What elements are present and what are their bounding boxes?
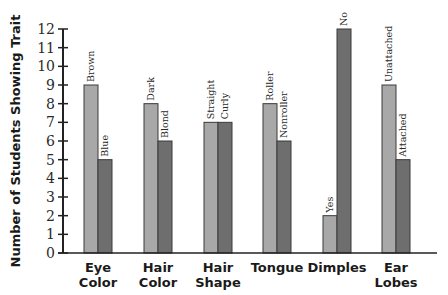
bar-label: Nonroller (278, 91, 289, 138)
x-category-label: Shape (195, 275, 241, 290)
y-tick-label: 5 (46, 152, 55, 168)
bar (218, 122, 232, 253)
y-tick-label: 7 (46, 114, 55, 130)
y-tick-label: 2 (46, 208, 55, 224)
bar-label: Dark (145, 77, 156, 101)
y-tick-label: 1 (46, 226, 55, 242)
bar-label: No (338, 12, 349, 26)
bar-label: Straight (205, 80, 216, 120)
bars: BrownBlueDarkBlondStraightCurlyRollerNon… (84, 12, 410, 253)
bar-chart: Number of Students Showing Trait 0123456… (0, 0, 448, 295)
bar (84, 85, 98, 253)
x-category-label: Color (79, 275, 118, 290)
bar (204, 122, 218, 253)
bar-label: Unattached (383, 26, 394, 82)
x-category-label: Ear (384, 260, 409, 275)
bar (337, 29, 351, 253)
y-tick-label: 0 (46, 245, 55, 261)
bar (144, 104, 158, 253)
bar-label: Blue (99, 135, 110, 157)
y-axis: 0123456789101112 (37, 21, 68, 261)
y-tick-label: 8 (46, 96, 55, 112)
y-tick-label: 11 (37, 40, 55, 56)
x-category-label: Eye (85, 260, 111, 275)
y-tick-label: 9 (46, 77, 55, 93)
bar (158, 141, 172, 253)
x-axis: EyeColorHairColorHairShapeTongueDimplesE… (58, 253, 437, 290)
bar-label: Brown (85, 51, 96, 83)
bar (396, 160, 410, 253)
bar-label: Attached (397, 114, 408, 158)
bar-label: Curly (219, 92, 230, 119)
bar (263, 104, 277, 253)
bar (382, 85, 396, 253)
x-category-label: Lobes (374, 275, 417, 290)
y-tick-label: 6 (46, 133, 55, 149)
bar (323, 216, 337, 253)
y-tick-label: 12 (37, 21, 55, 37)
bar (277, 141, 291, 253)
bar (98, 160, 112, 253)
y-tick-label: 4 (46, 170, 55, 186)
bar-label: Roller (264, 71, 275, 101)
y-axis-label: Number of Students Showing Trait (8, 15, 23, 268)
y-axis-title: Number of Students Showing Trait (8, 15, 23, 268)
y-tick-label: 10 (37, 58, 55, 74)
bar-label: Blond (159, 110, 170, 138)
x-category-label: Hair (143, 260, 174, 275)
y-tick-label: 3 (46, 189, 55, 205)
x-category-label: Dimples (307, 260, 366, 275)
bar-label: Yes (324, 197, 335, 214)
x-category-label: Tongue (251, 260, 304, 275)
x-category-label: Hair (203, 260, 234, 275)
x-category-label: Color (139, 275, 178, 290)
